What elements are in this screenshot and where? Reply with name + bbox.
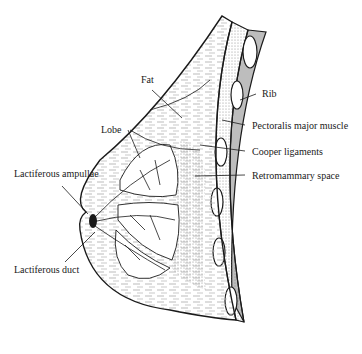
label-pectoralis-major-muscle: Pectoralis major muscle	[252, 120, 348, 131]
label-fat: Fat	[141, 74, 154, 85]
label-cooper-ligaments: Cooper ligaments	[252, 146, 323, 157]
rib-3	[215, 138, 227, 166]
label-lactiferous-duct: Lactiferous duct	[14, 264, 79, 275]
label-lobe: Lobe	[101, 124, 122, 135]
rib-2	[231, 81, 243, 109]
label-retromammary-space: Retromammary space	[252, 170, 339, 181]
label-rib: Rib	[262, 88, 276, 99]
rib-1	[243, 36, 257, 68]
label-lactiferous-ampullae: Lactiferous ampullae	[14, 168, 99, 179]
nipple	[89, 214, 97, 228]
